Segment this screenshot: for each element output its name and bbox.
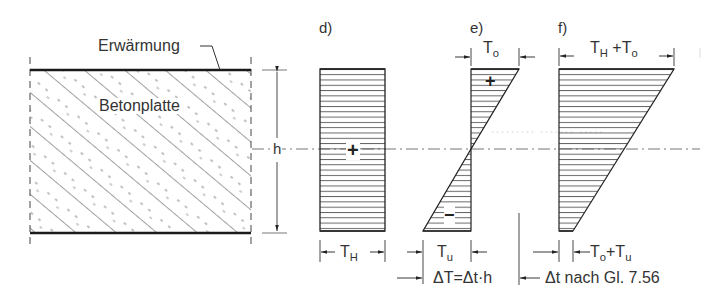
temperature-diagram: ········· ······· ····· [0, 0, 718, 306]
panel-f-trapezoid [533, 48, 674, 262]
height-label: h [272, 141, 282, 156]
heating-label: Erwärmung [98, 38, 180, 54]
panel-e-triangles [397, 48, 535, 284]
slab-material-label: Betonplatte [98, 98, 181, 114]
panel-e-plus-sign: + [485, 72, 496, 90]
panel-d-label: d) [319, 20, 332, 35]
panel-f-delta-t-note: Δt nach Gl. 7.56 [545, 270, 660, 286]
panel-d-plus-sign: + [346, 140, 360, 160]
concrete-slab [30, 46, 251, 245]
panel-d-TH-dimension: TH [340, 244, 358, 263]
panel-f-top-dimension: TH +To [590, 40, 638, 59]
panel-e-To-dimension: To [483, 40, 499, 59]
panel-e-Tu-dimension: Tu [437, 244, 453, 263]
panel-e-label: e) [470, 20, 483, 35]
panel-e-deltaT-formula: ΔT=Δt·h [433, 270, 492, 286]
panel-d-rectangle [320, 69, 385, 262]
panel-f-label: f) [558, 20, 567, 35]
panel-e-minus-sign: − [444, 206, 455, 224]
panel-f-bottom-dimension: To+Tu [590, 244, 631, 263]
